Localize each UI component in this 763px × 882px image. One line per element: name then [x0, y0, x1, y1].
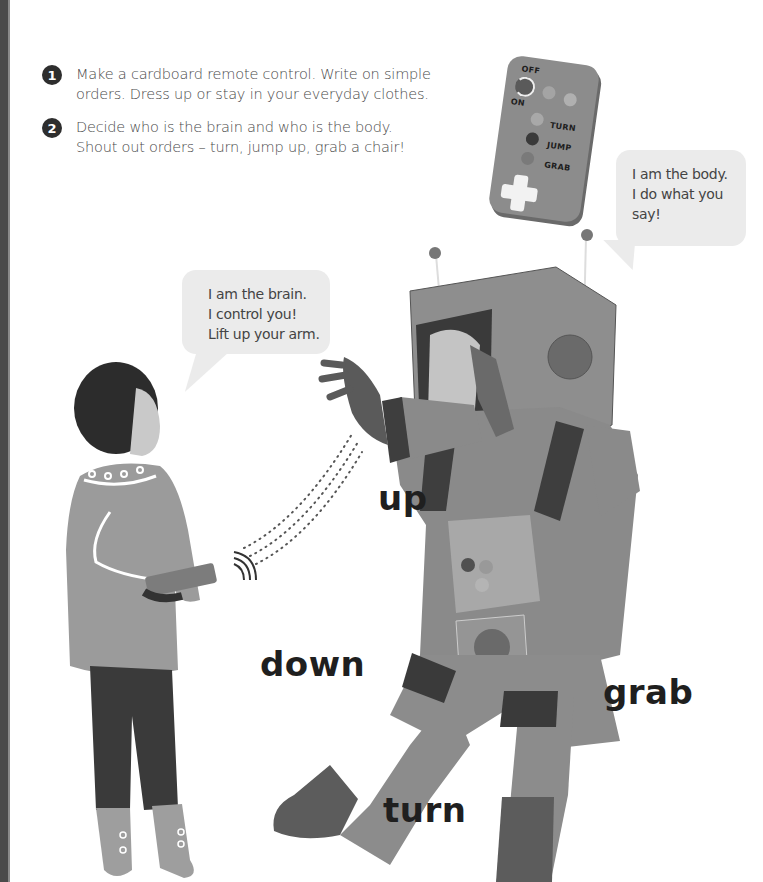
step-1: 1 Make a cardboard remote control. Write…	[42, 64, 431, 104]
brain-child-figure	[60, 330, 260, 882]
step-line: orders. Dress up or stay in your everyda…	[76, 84, 431, 104]
step-line: Make a cardboard remote control. Write o…	[76, 64, 431, 84]
remote-on-label: ON	[510, 97, 525, 108]
turn-button-icon	[530, 112, 545, 127]
power-button-icon	[514, 76, 537, 99]
command-word-turn: turn	[383, 790, 466, 830]
remote-button-label: JUMP	[547, 141, 573, 153]
step-number-badge: 1	[42, 65, 62, 85]
remote-dial-icon	[542, 85, 557, 100]
cardboard-remote-control: OFF ON TURN JUMP GRAB	[487, 54, 600, 223]
step-line: Decide who is the brain and who is the b…	[76, 117, 405, 137]
remote-dial-icon	[563, 92, 578, 107]
step-line: Shout out orders – turn, jump up, grab a…	[76, 137, 405, 157]
remote-button-label: GRAB	[544, 160, 571, 173]
step-text: Make a cardboard remote control. Write o…	[76, 64, 431, 104]
bubble-line: I do what you	[632, 184, 728, 204]
bubble-line: say!	[632, 204, 728, 224]
step-2: 2 Decide who is the brain and who is the…	[42, 117, 405, 157]
dpad-icon	[500, 184, 538, 203]
page-spine	[0, 0, 8, 882]
remote-off-label: OFF	[521, 64, 541, 76]
body-robot-figure	[260, 225, 720, 882]
grab-button-icon	[520, 151, 535, 166]
step-text: Decide who is the brain and who is the b…	[76, 117, 405, 157]
command-word-up: up	[378, 478, 428, 518]
step-number-badge: 2	[42, 118, 62, 138]
command-word-down: down	[260, 644, 365, 684]
bubble-line: I am the body.	[632, 164, 728, 184]
command-word-grab: grab	[603, 672, 693, 712]
jump-button-icon	[525, 132, 540, 147]
remote-button-label: TURN	[549, 121, 576, 134]
